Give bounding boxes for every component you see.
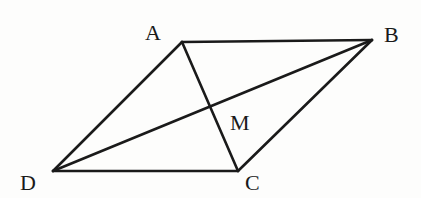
edge-bc <box>238 40 372 171</box>
label-m: M <box>230 110 250 135</box>
diagonal-db <box>53 40 372 171</box>
label-b: B <box>384 22 399 47</box>
edge-da <box>53 42 182 171</box>
label-d: D <box>20 170 36 195</box>
label-c: C <box>245 170 260 195</box>
parallelogram-diagram: A B C D M <box>0 0 421 198</box>
label-a: A <box>145 20 161 45</box>
edges <box>53 40 372 171</box>
edge-ab <box>182 40 372 42</box>
